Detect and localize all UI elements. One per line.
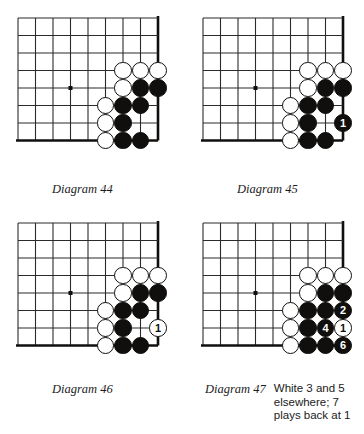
stone-white <box>282 302 300 320</box>
stone-white <box>282 337 300 355</box>
stone-black <box>317 97 335 115</box>
stone-white <box>97 319 115 337</box>
stone-white <box>97 337 115 355</box>
go-board <box>16 16 160 143</box>
diagram-note-line: White 3 and 5 <box>274 382 351 396</box>
stone-black <box>299 97 317 115</box>
stone-white <box>282 114 300 132</box>
numbered-stone-white: 1 <box>149 319 167 337</box>
stone-white <box>299 79 317 97</box>
stone-black <box>299 114 317 132</box>
stone-white <box>334 62 352 80</box>
numbered-stone-white: 1 <box>334 319 352 337</box>
stone-black <box>317 132 335 150</box>
stone-move-number: 4 <box>318 320 334 336</box>
diagram-47: 2416 <box>201 221 345 348</box>
stone-black <box>334 284 352 302</box>
stone-layer <box>16 16 160 143</box>
stone-white <box>114 267 132 285</box>
diagram-45-caption-row: Diagram 45 <box>237 182 298 197</box>
stone-move-number: 1 <box>150 320 166 336</box>
stone-white <box>149 62 167 80</box>
stone-white <box>299 284 317 302</box>
stone-black <box>317 302 335 320</box>
stone-black <box>299 337 317 355</box>
stone-white <box>114 284 132 302</box>
stone-black <box>334 79 352 97</box>
stone-white <box>97 302 115 320</box>
stone-black <box>114 319 132 337</box>
stone-white <box>132 267 150 285</box>
stone-move-number: 1 <box>335 320 351 336</box>
stone-black <box>114 132 132 150</box>
numbered-stone-black: 6 <box>334 337 352 355</box>
stone-black <box>132 97 150 115</box>
stone-white <box>149 267 167 285</box>
stone-white <box>282 319 300 337</box>
stone-black <box>132 337 150 355</box>
diagram-note-line: elsewhere; 7 <box>274 396 351 410</box>
diagram-sheet: Diagram 441Diagram 451Diagram 462416Diag… <box>0 0 364 434</box>
diagram-44 <box>16 16 160 143</box>
go-board: 2416 <box>201 221 345 348</box>
diagram-44-caption-row: Diagram 44 <box>52 182 113 197</box>
numbered-stone-black: 1 <box>334 114 352 132</box>
stone-white <box>97 132 115 150</box>
stone-black <box>114 302 132 320</box>
stone-move-number: 6 <box>335 338 351 354</box>
diagram-46: 1 <box>16 221 160 348</box>
diagram-45: 1 <box>201 16 345 143</box>
stone-black <box>149 284 167 302</box>
numbered-stone-black: 2 <box>334 302 352 320</box>
stone-white <box>114 62 132 80</box>
stone-white <box>334 267 352 285</box>
stone-layer: 1 <box>201 16 345 143</box>
stone-white <box>282 132 300 150</box>
stone-move-number: 1 <box>335 115 351 131</box>
stone-move-number: 2 <box>335 303 351 319</box>
stone-black <box>132 302 150 320</box>
stone-black <box>132 132 150 150</box>
diagram-caption: Diagram 46 <box>52 382 113 397</box>
stone-black <box>317 284 335 302</box>
diagram-note: White 3 and 5elsewhere; 7plays back at 1 <box>274 382 351 423</box>
diagram-caption: Diagram 44 <box>52 182 113 197</box>
stone-black <box>114 337 132 355</box>
stone-black <box>299 132 317 150</box>
stone-black <box>317 337 335 355</box>
diagram-caption: Diagram 45 <box>237 182 298 197</box>
numbered-stone-black: 4 <box>317 319 335 337</box>
stone-black <box>114 114 132 132</box>
stone-white <box>282 97 300 115</box>
stone-black <box>149 79 167 97</box>
stone-black <box>114 97 132 115</box>
stone-white <box>97 114 115 132</box>
go-board: 1 <box>201 16 345 143</box>
stone-white <box>97 97 115 115</box>
go-board: 1 <box>16 221 160 348</box>
stone-black <box>299 302 317 320</box>
stone-black <box>132 79 150 97</box>
stone-white <box>299 62 317 80</box>
stone-white <box>299 267 317 285</box>
diagram-47-caption-row: Diagram 47White 3 and 5elsewhere; 7plays… <box>205 382 351 423</box>
stone-white <box>114 79 132 97</box>
stone-layer: 2416 <box>201 221 345 348</box>
stone-white <box>317 267 335 285</box>
stone-layer: 1 <box>16 221 160 348</box>
diagram-46-caption-row: Diagram 46 <box>52 382 113 397</box>
diagram-caption: Diagram 47 <box>205 382 266 397</box>
stone-black <box>299 319 317 337</box>
stone-black <box>132 284 150 302</box>
diagram-note-line: plays back at 1 <box>274 409 351 423</box>
stone-black <box>317 79 335 97</box>
stone-white <box>132 62 150 80</box>
stone-white <box>317 62 335 80</box>
